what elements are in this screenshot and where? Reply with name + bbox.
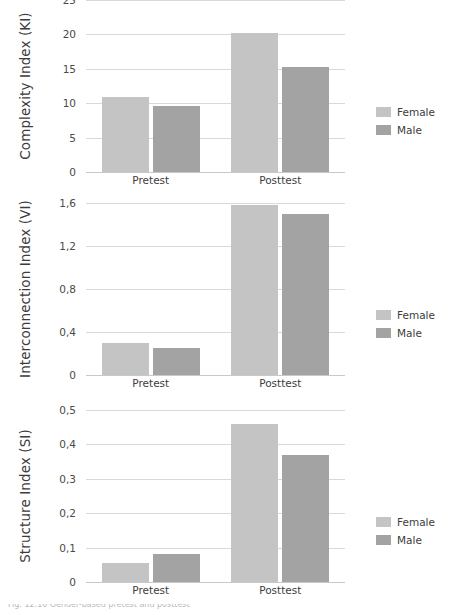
plot-area	[86, 0, 345, 172]
legend-item-male: Male	[376, 122, 435, 137]
legend-label-male: Male	[397, 327, 422, 339]
legend-item-female: Female	[376, 307, 435, 322]
bar-posttest-male	[282, 214, 329, 375]
figure-caption-cropped: Fig. 12.10 Gender-based pretest and post…	[8, 604, 338, 615]
legend-swatch-female	[376, 517, 391, 527]
chart-legend: FemaleMale	[376, 514, 435, 550]
chart-legend: FemaleMale	[376, 104, 435, 140]
x-axis-category-label-posttest: Posttest	[259, 584, 301, 596]
legend-item-male: Male	[376, 325, 435, 340]
bar-pretest-male	[153, 106, 200, 172]
y-axis-tick-labels: 00,10,20,30,40,5	[40, 410, 80, 582]
bar-group-container	[86, 203, 345, 375]
y-axis-tick-labels: 0510152025	[40, 0, 80, 172]
legend-item-female: Female	[376, 104, 435, 119]
y-axis-title: Complexity Index (KI)	[12, 0, 38, 172]
y-axis-tick-label: 0,1	[59, 542, 76, 554]
x-axis-category-label-posttest: Posttest	[259, 377, 301, 389]
legend-swatch-female	[376, 107, 391, 117]
y-axis-tick-label: 0,8	[59, 283, 76, 295]
bar-pretest-female	[102, 97, 149, 172]
y-axis-tick-label: 0,4	[59, 326, 76, 338]
axis-baseline	[86, 375, 345, 376]
legend-label-female: Female	[397, 516, 435, 528]
y-axis-tick-label: 15	[63, 63, 76, 75]
legend-label-male: Male	[397, 124, 422, 136]
y-axis-tick-label: 0	[69, 369, 76, 381]
y-axis-tick-label: 5	[69, 132, 76, 144]
x-axis-category-label-posttest: Posttest	[259, 174, 301, 186]
axis-baseline	[86, 582, 345, 583]
figure-three-panel-bar-charts: Complexity Index (KI)0510152025PretestPo…	[0, 0, 449, 615]
legend-item-male: Male	[376, 532, 435, 547]
legend-swatch-male	[376, 328, 391, 338]
bar-posttest-male	[282, 455, 329, 582]
legend-label-female: Female	[397, 106, 435, 118]
legend-label-female: Female	[397, 309, 435, 321]
bar-posttest-female	[231, 205, 278, 375]
legend-swatch-male	[376, 125, 391, 135]
bar-group-container	[86, 410, 345, 582]
y-axis-tick-label: 0,2	[59, 507, 76, 519]
bar-pretest-male	[153, 348, 200, 375]
axis-baseline	[86, 172, 345, 173]
y-axis-title: Interconnection Index (VI)	[12, 203, 38, 375]
legend-label-male: Male	[397, 534, 422, 546]
plot-area	[86, 410, 345, 582]
plot-area	[86, 203, 345, 375]
x-axis-category-labels: PretestPosttest	[86, 174, 345, 192]
chart-panel-structure-index: Structure Index (SI)00,10,20,30,40,5Pret…	[0, 410, 449, 610]
x-axis-category-label-pretest: Pretest	[132, 377, 169, 389]
bar-pretest-female	[102, 563, 149, 582]
x-axis-category-labels: PretestPosttest	[86, 377, 345, 395]
y-axis-title-text: Structure Index (SI)	[17, 429, 33, 563]
bar-posttest-male	[282, 67, 329, 172]
legend-swatch-male	[376, 535, 391, 545]
y-axis-tick-label: 0	[69, 166, 76, 178]
x-axis-category-label-pretest: Pretest	[132, 584, 169, 596]
bar-posttest-female	[231, 424, 278, 582]
bar-group-container	[86, 0, 345, 172]
y-axis-tick-label: 0,3	[59, 473, 76, 485]
figure-caption-text: Fig. 12.10 Gender-based pretest and post…	[8, 604, 338, 609]
y-axis-title-text: Interconnection Index (VI)	[17, 200, 33, 378]
y-axis-tick-label: 1,2	[59, 240, 76, 252]
y-axis-title-text: Complexity Index (KI)	[17, 12, 33, 159]
chart-panel-interconnection-index: Interconnection Index (VI)00,40,81,21,6P…	[0, 203, 449, 403]
x-axis-category-labels: PretestPosttest	[86, 584, 345, 602]
y-axis-tick-label: 0	[69, 576, 76, 588]
y-axis-tick-label: 20	[63, 28, 76, 40]
bar-pretest-male	[153, 554, 200, 582]
chart-legend: FemaleMale	[376, 307, 435, 343]
legend-item-female: Female	[376, 514, 435, 529]
y-axis-tick-label: 1,6	[59, 197, 76, 209]
y-axis-title: Structure Index (SI)	[12, 410, 38, 582]
y-axis-tick-label: 0,4	[59, 438, 76, 450]
y-axis-tick-label: 10	[63, 97, 76, 109]
bar-posttest-female	[231, 33, 278, 172]
bar-pretest-female	[102, 343, 149, 375]
x-axis-category-label-pretest: Pretest	[132, 174, 169, 186]
y-axis-tick-label: 0,5	[59, 404, 76, 416]
y-axis-tick-label: 25	[63, 0, 76, 6]
y-axis-tick-labels: 00,40,81,21,6	[40, 203, 80, 375]
legend-swatch-female	[376, 310, 391, 320]
chart-panel-complexity-index: Complexity Index (KI)0510152025PretestPo…	[0, 0, 449, 200]
